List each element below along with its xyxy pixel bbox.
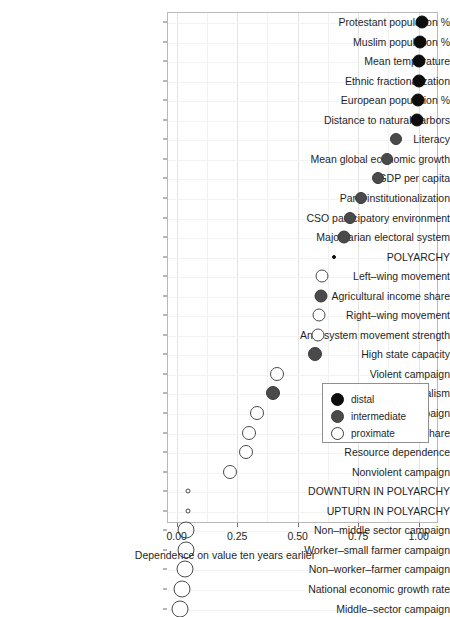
y-axis-tick: [163, 608, 167, 609]
data-point: [355, 192, 367, 204]
y-axis-label: POLYARCHY: [285, 251, 450, 262]
data-point: [223, 465, 237, 479]
data-point: [372, 172, 384, 184]
y-axis-label: DOWNTURN IN POLYARCHY: [285, 486, 450, 497]
y-axis-tick: [163, 569, 167, 570]
y-axis-tick: [163, 413, 167, 414]
data-point: [315, 270, 328, 283]
y-axis-tick: [163, 334, 167, 335]
data-point: [413, 35, 426, 48]
x-axis-tick: [419, 523, 420, 527]
x-axis-tick-label: 0.25: [227, 530, 247, 542]
x-axis-title: Dependence on value ten years earlier: [0, 549, 450, 561]
y-axis-tick: [163, 178, 167, 179]
y-axis-tick: [163, 100, 167, 101]
legend-label: intermediate: [351, 411, 406, 422]
data-point: [416, 16, 429, 29]
y-axis-label: CSO participatory environment: [285, 212, 450, 223]
data-point: [412, 74, 425, 87]
gridline-minor: [267, 13, 268, 522]
y-axis-tick: [163, 588, 167, 589]
legend-item: proximate: [331, 424, 395, 442]
data-point: [239, 445, 253, 459]
legend-label: distal: [351, 394, 374, 405]
y-axis-tick: [163, 237, 167, 238]
x-axis-tick-label: 0.50: [287, 530, 307, 542]
data-point: [390, 133, 402, 145]
legend-label: proximate: [351, 428, 395, 439]
y-axis-label: European population %: [285, 95, 450, 106]
y-axis-tick: [163, 41, 167, 42]
y-axis-tick: [163, 491, 167, 492]
data-point: [312, 309, 325, 322]
data-point: [332, 255, 336, 259]
y-axis-tick: [163, 276, 167, 277]
y-axis-label: Ethnic fractionalization: [285, 75, 450, 86]
y-axis-tick: [163, 197, 167, 198]
y-axis-tick: [163, 256, 167, 257]
x-axis-tick: [298, 523, 299, 527]
y-axis-label: Majoritarian electoral system: [285, 232, 450, 243]
y-axis-label: Middle–sector campaign: [285, 603, 450, 614]
data-point: [266, 386, 280, 400]
y-axis-label: Right–wing movement: [285, 310, 450, 321]
x-axis-tick-label: 0.00: [166, 530, 186, 542]
y-axis-tick: [163, 432, 167, 433]
data-point: [413, 55, 426, 68]
data-point: [338, 231, 351, 244]
y-axis-label: Anti–system movement strength: [285, 329, 450, 340]
data-point: [270, 367, 284, 381]
data-point: [312, 328, 325, 341]
data-point: [177, 561, 194, 578]
legend-item: intermediate: [331, 407, 406, 425]
y-axis-label: Mean global economic growth: [285, 153, 450, 164]
y-axis-label: Non–worker–farmer campaign: [285, 564, 450, 575]
data-point: [381, 153, 393, 165]
gridline-minor: [207, 13, 208, 522]
legend-item: distal: [331, 390, 374, 408]
data-point: [185, 489, 190, 494]
y-axis-tick: [163, 80, 167, 81]
data-point: [250, 406, 264, 420]
data-point: [308, 347, 322, 361]
data-point: [344, 212, 356, 224]
y-axis-tick: [163, 373, 167, 374]
data-point: [411, 113, 424, 126]
y-axis-label: Agricultural income share: [285, 290, 450, 301]
x-axis-tick: [358, 523, 359, 527]
x-axis-tick: [237, 523, 238, 527]
y-axis-label: Resource dependence: [285, 447, 450, 458]
y-axis-tick: [163, 393, 167, 394]
y-axis-tick: [163, 61, 167, 62]
x-axis-tick-label: 0.75: [348, 530, 368, 542]
data-point: [412, 94, 425, 107]
y-axis-label: National economic growth rate: [285, 583, 450, 594]
legend-marker-distal: [331, 393, 344, 406]
x-axis-tick-label: 1.00: [408, 530, 428, 542]
y-axis-tick: [163, 158, 167, 159]
data-point: [315, 289, 328, 302]
legend-marker-intermediate: [331, 410, 344, 423]
y-axis-label: Distance to natural harbors: [285, 114, 450, 125]
data-point: [185, 508, 190, 513]
y-axis-label: Literacy: [285, 134, 450, 145]
y-axis-label: Violent campaign: [285, 368, 450, 379]
legend: distalintermediateproximate: [322, 383, 429, 443]
x-axis-tick: [177, 523, 178, 527]
y-axis-tick: [163, 354, 167, 355]
gridline-major: [177, 13, 178, 522]
data-point: [174, 580, 191, 597]
y-axis-label: Party institutionalization: [285, 192, 450, 203]
y-axis-tick: [163, 139, 167, 140]
y-axis-tick: [163, 217, 167, 218]
y-axis-label: Nonviolent campaign: [285, 466, 450, 477]
data-point: [171, 600, 188, 617]
y-axis-tick: [163, 119, 167, 120]
y-axis-tick: [163, 295, 167, 296]
y-axis-label: UPTURN IN POLYARCHY: [285, 505, 450, 516]
y-axis-tick: [163, 471, 167, 472]
y-axis-tick: [163, 452, 167, 453]
y-axis-tick: [163, 510, 167, 511]
data-point: [242, 426, 256, 440]
